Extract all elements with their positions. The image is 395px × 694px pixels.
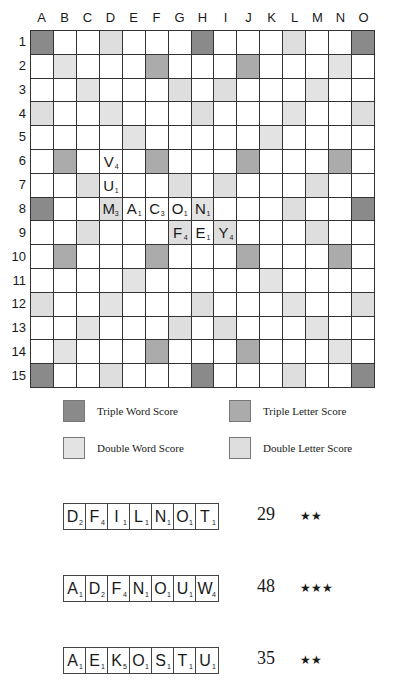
board-cell-m11[interactable] (306, 269, 328, 292)
board-cell-o15[interactable] (352, 364, 374, 387)
board-cell-e5[interactable] (123, 126, 145, 149)
board-cell-f1[interactable] (146, 31, 168, 54)
board-cell-m6[interactable] (306, 150, 328, 173)
board-cell-j7[interactable] (237, 174, 259, 197)
board-cell-a4[interactable] (31, 102, 53, 125)
board-cell-b4[interactable] (54, 102, 76, 125)
board-cell-b2[interactable] (54, 55, 76, 78)
board-cell-l13[interactable] (283, 317, 305, 340)
board-cell-c3[interactable] (77, 79, 99, 102)
board-cell-l2[interactable] (283, 55, 305, 78)
board-cell-h12[interactable] (192, 293, 214, 316)
board-cell-n7[interactable] (329, 174, 351, 197)
board-cell-j1[interactable] (237, 31, 259, 54)
board-cell-h14[interactable] (192, 340, 214, 363)
board-cell-a11[interactable] (31, 269, 53, 292)
board-cell-b5[interactable] (54, 126, 76, 149)
board-cell-i4[interactable] (214, 102, 236, 125)
board-cell-n5[interactable] (329, 126, 351, 149)
board-cell-e6[interactable] (123, 150, 145, 173)
board-cell-l4[interactable] (283, 102, 305, 125)
board-cell-i6[interactable] (214, 150, 236, 173)
board-cell-c12[interactable] (77, 293, 99, 316)
board-cell-k2[interactable] (260, 55, 282, 78)
board-cell-f12[interactable] (146, 293, 168, 316)
board-cell-a9[interactable] (31, 221, 53, 244)
board-cell-i3[interactable] (214, 79, 236, 102)
board-cell-f4[interactable] (146, 102, 168, 125)
board-cell-j6[interactable] (237, 150, 259, 173)
board-cell-d14[interactable] (100, 340, 122, 363)
board-cell-a2[interactable] (31, 55, 53, 78)
board-cell-j14[interactable] (237, 340, 259, 363)
board-cell-b11[interactable] (54, 269, 76, 292)
board-cell-m4[interactable] (306, 102, 328, 125)
board-cell-h6[interactable] (192, 150, 214, 173)
board-cell-c14[interactable] (77, 340, 99, 363)
board-cell-h9[interactable]: E1 (192, 221, 214, 244)
board-cell-j5[interactable] (237, 126, 259, 149)
rack-tile[interactable]: O1 (152, 576, 174, 601)
board-cell-j8[interactable] (237, 198, 259, 221)
board-cell-o13[interactable] (352, 317, 374, 340)
board-cell-g11[interactable] (169, 269, 191, 292)
board-cell-i14[interactable] (214, 340, 236, 363)
board-cell-d9[interactable] (100, 221, 122, 244)
board-cell-d13[interactable] (100, 317, 122, 340)
board-cell-h5[interactable] (192, 126, 214, 149)
board-cell-g9[interactable]: F4 (169, 221, 191, 244)
board-cell-i5[interactable] (214, 126, 236, 149)
board-cell-a10[interactable] (31, 245, 53, 268)
board-cell-k1[interactable] (260, 31, 282, 54)
board-cell-e4[interactable] (123, 102, 145, 125)
rack-tile[interactable]: N1 (130, 576, 152, 601)
board-cell-n6[interactable] (329, 150, 351, 173)
board-cell-j10[interactable] (237, 245, 259, 268)
board-cell-l15[interactable] (283, 364, 305, 387)
rack-tile[interactable]: T1 (174, 648, 196, 673)
board-cell-f11[interactable] (146, 269, 168, 292)
board-cell-m13[interactable] (306, 317, 328, 340)
board-cell-g6[interactable] (169, 150, 191, 173)
board-cell-e8[interactable]: A1 (123, 198, 145, 221)
board-cell-e3[interactable] (123, 79, 145, 102)
board-cell-l12[interactable] (283, 293, 305, 316)
board-cell-c2[interactable] (77, 55, 99, 78)
board-cell-o7[interactable] (352, 174, 374, 197)
board-cell-o6[interactable] (352, 150, 374, 173)
board-cell-m8[interactable] (306, 198, 328, 221)
board-cell-m7[interactable] (306, 174, 328, 197)
board-cell-c8[interactable] (77, 198, 99, 221)
board-cell-l3[interactable] (283, 79, 305, 102)
board-cell-f14[interactable] (146, 340, 168, 363)
board-cell-m2[interactable] (306, 55, 328, 78)
board-cell-i9[interactable]: Y4 (214, 221, 236, 244)
board-cell-e1[interactable] (123, 31, 145, 54)
board-cell-b8[interactable] (54, 198, 76, 221)
board-cell-a6[interactable] (31, 150, 53, 173)
board-cell-n12[interactable] (329, 293, 351, 316)
board-cell-a8[interactable] (31, 198, 53, 221)
board-cell-k10[interactable] (260, 245, 282, 268)
board-cell-i15[interactable] (214, 364, 236, 387)
board-cell-b6[interactable] (54, 150, 76, 173)
rack-tile[interactable]: A1 (64, 648, 86, 673)
board-cell-h1[interactable] (192, 31, 214, 54)
board-cell-f13[interactable] (146, 317, 168, 340)
board-cell-b3[interactable] (54, 79, 76, 102)
board-cell-b7[interactable] (54, 174, 76, 197)
board-cell-d15[interactable] (100, 364, 122, 387)
board-cell-g15[interactable] (169, 364, 191, 387)
board-cell-c4[interactable] (77, 102, 99, 125)
board-cell-c11[interactable] (77, 269, 99, 292)
board-cell-m1[interactable] (306, 31, 328, 54)
board-cell-o1[interactable] (352, 31, 374, 54)
board-cell-l1[interactable] (283, 31, 305, 54)
board-cell-i2[interactable] (214, 55, 236, 78)
rack-tile[interactable]: F4 (86, 504, 108, 529)
board-cell-n8[interactable] (329, 198, 351, 221)
rack-tile[interactable]: A1 (64, 576, 86, 601)
board-cell-n15[interactable] (329, 364, 351, 387)
board-cell-g8[interactable]: O1 (169, 198, 191, 221)
rack-tile[interactable]: U1 (174, 576, 196, 601)
